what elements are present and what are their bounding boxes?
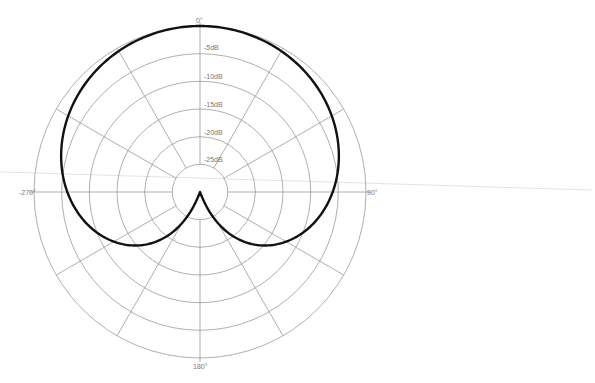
ring-label-15db: -15dB [204,101,223,108]
ring-label-5db: -5dB [204,44,219,51]
ring-label-20db: -20dB [204,129,223,136]
angle-label-90: 90° [367,189,378,196]
angle-label-0: 0° [196,17,203,24]
angle-label-180: 180° [193,363,208,370]
ring-label-25db: -25dB [204,156,223,163]
background-guide-line [0,172,592,190]
polar-chart: 0° 90° 180° -270° -5dB -10dB -15dB -20dB… [0,0,595,383]
ring-label-10db: -10dB [204,73,223,80]
angle-label-270: -270° [19,189,36,196]
